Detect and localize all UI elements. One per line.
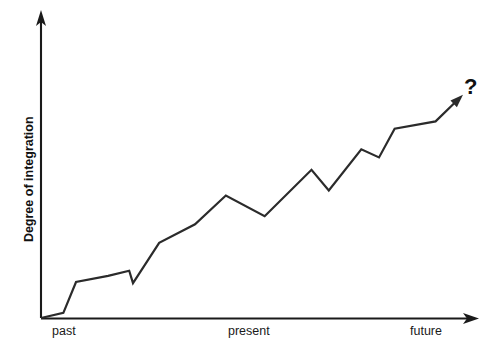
y-axis-title: Degree of integration: [23, 99, 36, 259]
x-tick-label-future: future: [410, 325, 442, 338]
chart-container: Degree of integration past present futur…: [0, 0, 487, 349]
trend-line-series: [41, 101, 457, 318]
chart-canvas: [0, 0, 487, 349]
future-uncertainty-annotation: ?: [464, 76, 477, 98]
x-tick-label-present: present: [228, 325, 270, 338]
x-tick-label-past: past: [52, 325, 76, 338]
